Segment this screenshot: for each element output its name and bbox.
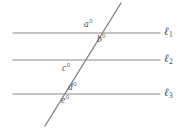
diagram-canvas: [0, 0, 193, 138]
angle-label-b: b°: [97, 35, 106, 45]
line-label-l1-glyph: ℓ: [164, 25, 169, 37]
angle-label-d: d°: [68, 83, 77, 93]
angle-label-a: a°: [84, 20, 93, 30]
line-label-l3-subscript: 3: [169, 91, 173, 100]
angle-label-c: c°: [62, 64, 70, 74]
angle-label-e: e°: [61, 96, 69, 106]
line-label-l2: ℓ2: [164, 53, 172, 64]
line-label-l3: ℓ3: [164, 87, 172, 98]
geometry-diagram: a° b° c° d° e° ℓ1 ℓ2 ℓ3: [0, 0, 193, 138]
line-label-l1: ℓ1: [164, 26, 172, 37]
transversal-line: [45, 3, 121, 126]
line-label-l2-glyph: ℓ: [164, 52, 169, 64]
line-label-l2-subscript: 2: [169, 57, 173, 66]
line-label-l1-subscript: 1: [169, 30, 173, 39]
line-label-l3-glyph: ℓ: [164, 86, 169, 98]
